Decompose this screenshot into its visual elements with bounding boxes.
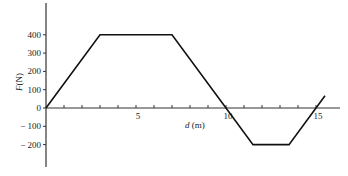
y-tick-label: 100	[28, 85, 42, 95]
y-tick-label: 400	[28, 30, 42, 40]
y-tick-label: − 200	[20, 140, 41, 150]
ticks	[43, 35, 316, 145]
axes	[46, 3, 340, 167]
x-tick-label: 5	[136, 111, 141, 121]
tick-labels: 510154003002001000− 100− 200	[20, 30, 323, 150]
y-tick-label: − 100	[20, 121, 41, 131]
y-tick-label: 200	[28, 66, 42, 76]
y-tick-label: 0	[37, 103, 42, 113]
x-axis-label: d (m)	[185, 120, 205, 130]
force-distance-chart: 510154003002001000− 100− 200 d (m) F(N)	[0, 0, 348, 176]
y-axis-label: F(N)	[14, 73, 24, 92]
x-tick-label: 15	[314, 111, 324, 121]
y-tick-label: 300	[28, 48, 42, 58]
